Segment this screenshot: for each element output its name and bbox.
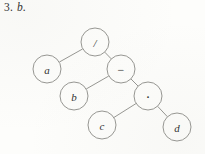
- tree-node-dot: ·: [134, 82, 162, 110]
- tree-edge-minus-b: [87, 76, 109, 89]
- tree-node-label-b: b: [71, 91, 77, 103]
- expression-tree-diagram: /a−b·cd: [0, 0, 205, 154]
- tree-edge-minus-dot: [131, 79, 137, 85]
- tree-node-label-minus: −: [118, 63, 125, 77]
- tree-edge-dot-c: [114, 104, 135, 118]
- figure-page: 3.b. /a−b·cd: [0, 0, 205, 154]
- tree-edge-root-a: [60, 49, 83, 62]
- tree-edge-root-minus: [105, 52, 111, 58]
- tree-node-layer: /a−b·cd: [33, 28, 191, 141]
- tree-node-b: b: [60, 82, 88, 110]
- tree-node-label-a: a: [44, 64, 50, 76]
- tree-node-minus: −: [107, 55, 135, 83]
- tree-node-label-c: c: [100, 120, 105, 132]
- tree-node-d: d: [163, 113, 191, 141]
- tree-node-label-d: d: [174, 122, 180, 134]
- tree-node-label-dot: ·: [146, 89, 151, 105]
- tree-node-c: c: [88, 111, 116, 139]
- tree-edge-dot-d: [158, 107, 167, 117]
- tree-node-a: a: [33, 55, 61, 83]
- tree-node-root: /: [81, 28, 109, 56]
